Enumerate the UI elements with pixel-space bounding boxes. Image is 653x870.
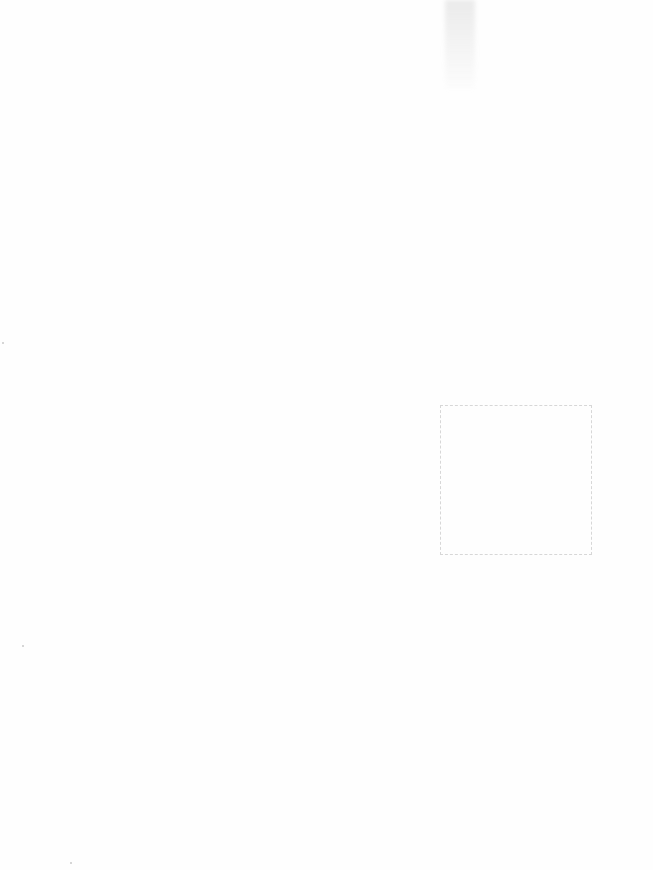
scan-speck: [70, 862, 72, 864]
scan-smudge: [445, 0, 475, 90]
faint-stamp-box: [440, 405, 592, 555]
scan-speck: [22, 645, 24, 647]
scan-speck: [2, 342, 4, 344]
blank-scanned-page: [0, 0, 653, 870]
